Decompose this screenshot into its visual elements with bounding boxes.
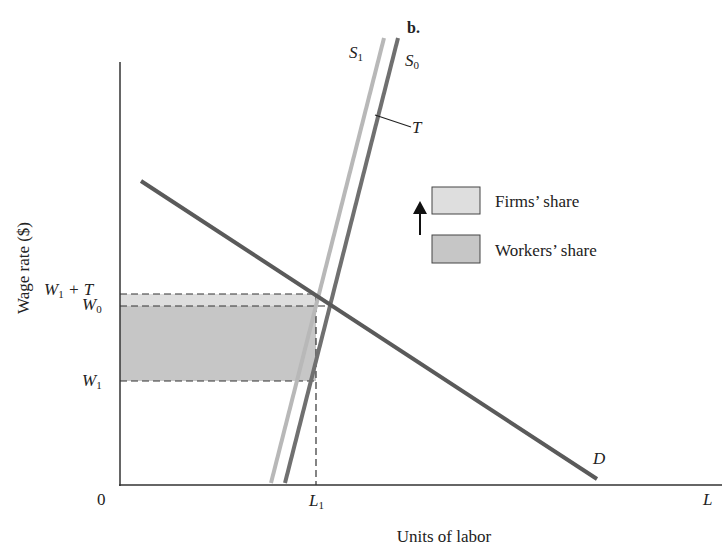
firms-share-region <box>120 294 316 306</box>
s0-label: S0 <box>405 52 419 71</box>
w0-label: W0 <box>82 296 102 315</box>
w1-label: W1 <box>82 372 102 391</box>
x-axis-label: Units of labor <box>397 527 491 547</box>
chart-title: b. <box>407 19 420 37</box>
s0-supply-curve <box>285 38 398 483</box>
x-end-label: L <box>703 491 712 508</box>
s1-label: S1 <box>349 44 363 63</box>
origin-label: 0 <box>97 491 106 508</box>
legend-label-firms: Firms’ share <box>495 192 579 212</box>
tax-wedge-marker <box>375 115 411 127</box>
t-label: T <box>412 119 421 136</box>
legend-swatch-firms <box>432 187 480 214</box>
workers-share-region <box>120 306 316 381</box>
l1-label: L1 <box>309 492 324 511</box>
up-arrow-icon <box>413 201 427 235</box>
chart-canvas <box>0 0 725 547</box>
y-axis-label: Wage rate ($) <box>14 222 34 314</box>
legend-swatch-workers <box>432 235 480 263</box>
s1-supply-curve <box>271 38 384 483</box>
legend-label-workers: Workers’ share <box>495 241 597 261</box>
d-label: D <box>593 450 605 467</box>
